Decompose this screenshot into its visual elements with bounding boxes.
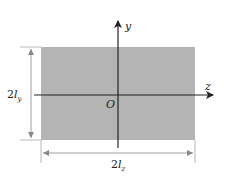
- height-subscript: y: [17, 95, 23, 103]
- cross-section-diagram: y z O 2ly 2lz: [0, 0, 228, 180]
- width-dimension-label: 2lz: [111, 158, 126, 173]
- width-prefix: 2: [111, 158, 118, 171]
- width-subscript: z: [121, 165, 126, 173]
- z-axis-label: z: [204, 80, 211, 93]
- height-dimension-label: 2ly: [7, 88, 23, 103]
- y-axis-label: y: [124, 20, 132, 33]
- origin-label: O: [106, 98, 115, 111]
- height-prefix: 2: [7, 88, 14, 101]
